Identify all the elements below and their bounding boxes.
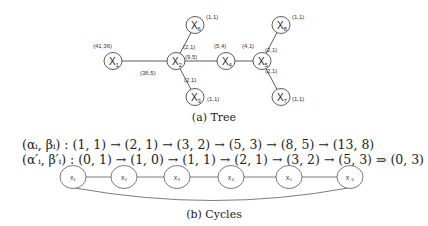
tree-node-x6: X6 [186,17,204,34]
edge-weight-label: (2,1) [184,77,196,83]
tree-node-x5: X5 [253,53,271,70]
tree-caption: (a) Tree [192,111,236,124]
cycle-node-3: x₃ [164,166,190,189]
node-weight-label: (1,1) [206,14,218,20]
edge-weight-label: (9,5) [185,54,197,60]
tree-node-x2: X2 [167,53,185,70]
diagram-canvas: X1X2X6X3X4X5X8X7 (41,36)(1,1)(1,1)(5,4)(… [0,0,428,226]
cycle-node-label: x₁ [70,174,77,181]
cycle-node-label: x₂ [121,174,128,181]
node-weight-label: (5,4) [214,43,226,49]
tree-node-x4: X4 [217,53,235,70]
edge-weight-label: (2,1) [265,47,277,53]
node-weight-label: (4,1) [242,43,254,49]
cycle-node-label: x₅ [286,174,293,181]
tree-node-x3: X3 [186,89,204,106]
cycles-caption: (b) Cycles [186,208,242,221]
edge-weight-label: (36,5) [140,70,156,76]
cycle-node-label: x ₆ [346,174,354,181]
cycle-sequence-alpha-beta: (αᵢ, βᵢ) : (1, 1) → (2, 1) → (3, 2) → (5… [22,137,374,152]
tree-node-x1: X1 [104,53,122,70]
node-weight-label: (1,1) [292,96,304,102]
edge-weight-label: (2,1) [183,44,195,50]
node-weight-label: (1,1) [292,14,304,20]
edge-weight-label: (2,1) [265,68,277,74]
node-weight-label: (41,36) [93,43,112,49]
cycle-node-5: x₅ [276,166,302,189]
cycle-node-2: x₂ [111,166,137,189]
tree-node-x8: X8 [272,17,290,34]
cycle-node-label: x₃ [174,174,181,181]
cycle-node-1: x₁ [60,166,86,189]
cycle-sequence-alpha-beta-prime: (α′ᵢ, β′ᵢ) : (0, 1) → (1, 0) → (1, 1) → … [22,152,424,167]
cycle-graph: x₁x₂x₃x₄x₅x ₆ [60,166,363,201]
cycle-node-4: x₄ [218,166,244,189]
cycle-node-label: x₄ [228,174,235,181]
cycle-node-6: x ₆ [337,166,363,189]
node-weight-label: (1,1) [207,96,219,102]
cycle-closing-edge [75,188,348,201]
tree-node-x7: X7 [272,89,290,106]
